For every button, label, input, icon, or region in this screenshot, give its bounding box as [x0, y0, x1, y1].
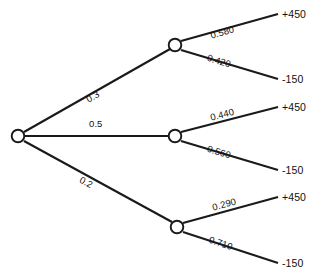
edge-root-to-bottom-node	[24, 141, 172, 222]
chance-node-bottom	[171, 221, 184, 234]
decision-tree-figure: 0.3 0.5 0.2 0.580 0.420 0.440 0.560 0.29…	[0, 0, 319, 279]
outcome-label-middle-loss: -150	[282, 164, 303, 176]
outcome-label-middle-gain: +450	[282, 101, 306, 113]
probability-label-branch-middle: 0.5	[89, 118, 103, 129]
chance-node-top	[169, 39, 182, 52]
outcome-label-bottom-loss: -150	[282, 257, 303, 269]
root-node	[12, 130, 25, 143]
outcome-label-bottom-gain: +450	[282, 191, 306, 203]
tree-graphics	[0, 0, 319, 279]
chance-node-middle	[169, 130, 182, 143]
outcome-label-top-loss: -150	[282, 73, 303, 85]
outcome-label-top-gain: +450	[282, 8, 306, 20]
